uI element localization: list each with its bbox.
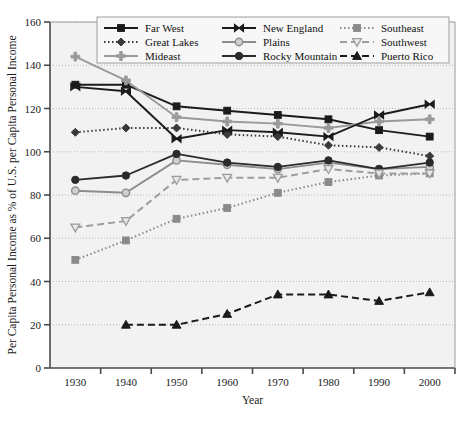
- line-chart: 0204060801001201401601930194019501960197…: [0, 0, 468, 421]
- marker-circle: [426, 159, 433, 166]
- marker-square: [123, 237, 130, 244]
- marker-square: [426, 133, 433, 140]
- legend-label: New England: [263, 22, 324, 34]
- marker-square: [173, 103, 180, 110]
- x-tick-label-1970: 1970: [267, 376, 290, 388]
- legend: Far WestGreat LakesMideastNew EnglandPla…: [97, 17, 449, 63]
- marker-square: [325, 179, 332, 186]
- marker-square: [224, 107, 231, 114]
- marker-circle-open: [72, 187, 79, 194]
- marker-circle: [223, 159, 230, 166]
- y-tick-label-0: 0: [36, 362, 42, 374]
- marker-circle: [325, 157, 332, 164]
- x-tick-label-1980: 1980: [317, 376, 340, 388]
- marker-square: [376, 127, 383, 134]
- marker-circle: [122, 172, 129, 179]
- legend-label: Rocky Mountain: [263, 50, 338, 62]
- marker-square: [325, 116, 332, 123]
- x-tick-label-1950: 1950: [166, 376, 189, 388]
- marker-square: [274, 112, 281, 119]
- marker-square: [173, 215, 180, 222]
- y-tick-label-20: 20: [30, 319, 42, 331]
- x-tick-label-2000: 2000: [419, 376, 442, 388]
- x-tick-label-1960: 1960: [216, 376, 239, 388]
- legend-label: Mideast: [145, 50, 180, 62]
- legend-label: Southeast: [381, 22, 424, 34]
- x-tick-label-1990: 1990: [368, 376, 391, 388]
- marker-circle: [72, 176, 79, 183]
- marker-square: [118, 25, 125, 32]
- y-axis-title: Per Capita Personal Income as % of U.S. …: [6, 35, 19, 354]
- x-tick-label-1940: 1940: [115, 376, 138, 388]
- marker-circle: [274, 163, 281, 170]
- legend-label: Far West: [145, 22, 184, 34]
- marker-square: [72, 256, 79, 263]
- chart-container: 0204060801001201401601930194019501960197…: [0, 0, 468, 421]
- y-tick-label-100: 100: [25, 146, 42, 158]
- marker-circle: [173, 150, 180, 157]
- y-tick-label-120: 120: [25, 103, 42, 115]
- y-tick-label-140: 140: [25, 59, 42, 71]
- x-axis-title: Year: [242, 394, 263, 406]
- y-tick-label-40: 40: [30, 276, 42, 288]
- legend-label: Puerto Rico: [381, 50, 434, 62]
- marker-square: [274, 189, 281, 196]
- legend-label: Plains: [263, 36, 290, 48]
- marker-circle-open: [122, 189, 129, 196]
- legend-label: Southwest: [381, 36, 427, 48]
- marker-square: [354, 25, 361, 32]
- y-tick-label-60: 60: [30, 232, 42, 244]
- marker-circle: [235, 52, 242, 59]
- marker-square: [224, 205, 231, 212]
- y-tick-label-80: 80: [30, 189, 42, 201]
- legend-label: Great Lakes: [145, 36, 198, 48]
- marker-circle-open: [235, 38, 242, 45]
- y-tick-label-160: 160: [25, 16, 42, 28]
- x-tick-label-1930: 1930: [64, 376, 87, 388]
